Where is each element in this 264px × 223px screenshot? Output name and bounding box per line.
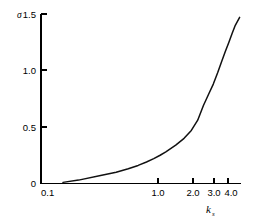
x-axis-title-subscript: s — [212, 210, 215, 218]
sigma-vs-ks-line-chart: 1.5 1.0 0.5 0 σ 0.1 1.0 2.0 3.0 4.0 k s — [0, 0, 264, 223]
x-tick-label-1-0: 1.0 — [151, 187, 164, 198]
y-axis-title: σ — [17, 10, 22, 20]
x-tick-label-3-0: 3.0 — [207, 187, 220, 198]
x-tick-label-0-1: 0.1 — [41, 187, 54, 198]
y-tick-label-0-5: 0.5 — [23, 122, 36, 133]
x-tick-label-4-0: 4.0 — [224, 187, 237, 198]
x-tick-label-2-0: 2.0 — [186, 187, 199, 198]
chart-figure: 1.5 1.0 0.5 0 σ 0.1 1.0 2.0 3.0 4.0 k s — [0, 0, 264, 223]
y-tick-label-1-0: 1.0 — [23, 65, 36, 76]
y-tick-label-0: 0 — [31, 178, 36, 189]
y-tick-label-1-5: 1.5 — [23, 9, 36, 20]
